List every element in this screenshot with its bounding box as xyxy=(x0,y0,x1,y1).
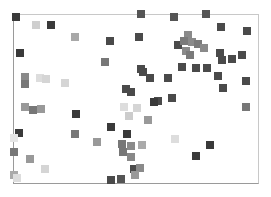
scatter-point xyxy=(202,10,210,18)
scatter-point xyxy=(21,80,29,88)
scatter-point xyxy=(71,130,79,138)
scatter-point xyxy=(180,37,188,45)
scatter-point xyxy=(133,104,141,112)
scatter-point xyxy=(178,63,186,71)
scatter-point xyxy=(37,105,45,113)
scatter-point xyxy=(146,74,154,82)
scatter-point xyxy=(41,165,49,173)
scatter-point xyxy=(32,21,40,29)
scatter-point xyxy=(127,142,135,150)
scatter-point xyxy=(137,10,145,18)
scatter-point xyxy=(171,135,179,143)
scatter-point xyxy=(107,176,115,184)
scatter-point xyxy=(200,44,208,52)
scatter-point xyxy=(16,49,24,57)
scatter-point xyxy=(106,37,114,45)
scatter-point xyxy=(192,64,200,72)
scatter-point xyxy=(164,74,172,82)
scatter-point xyxy=(150,98,158,106)
scatter-point xyxy=(206,141,214,149)
scatter-point xyxy=(93,138,101,146)
scatter-point xyxy=(192,152,200,160)
scatter-point xyxy=(186,51,194,59)
scatter-point xyxy=(61,79,69,87)
scatter-point xyxy=(118,140,126,148)
scatter-point xyxy=(127,153,135,161)
scatter-point xyxy=(47,21,55,29)
scatter-point xyxy=(203,64,211,72)
scatter-point xyxy=(242,103,250,111)
scatter-point xyxy=(144,116,152,124)
scatter-point xyxy=(12,13,20,21)
scatter-point xyxy=(218,56,226,64)
scatter-point xyxy=(21,103,29,111)
scatter-point xyxy=(214,72,222,80)
scatter-point xyxy=(42,75,50,83)
scatter-point xyxy=(101,58,109,66)
scatter-point xyxy=(117,175,125,183)
scatter-point xyxy=(120,103,128,111)
scatter-point xyxy=(170,13,178,21)
scatter-point xyxy=(131,171,139,179)
scatter-point xyxy=(135,33,143,41)
scatter-point xyxy=(10,134,18,142)
scatter-point xyxy=(72,110,80,118)
scatter-point xyxy=(219,84,227,92)
scatter-point xyxy=(168,94,176,102)
scatter-point xyxy=(107,123,115,131)
scatter-point xyxy=(10,148,18,156)
scatter-point xyxy=(238,51,246,59)
scatter-point xyxy=(242,77,250,85)
scatter-point xyxy=(125,112,133,120)
scatter-point xyxy=(119,148,127,156)
scatter-point xyxy=(243,27,251,35)
scatter-point xyxy=(228,55,236,63)
scatter-point xyxy=(138,141,146,149)
scatter-point xyxy=(29,106,37,114)
scatter-point xyxy=(127,88,135,96)
scatter-point xyxy=(217,23,225,31)
scatter-point xyxy=(123,130,131,138)
scatter-point xyxy=(71,33,79,41)
scatter-point xyxy=(26,155,34,163)
scatter-point xyxy=(13,174,21,182)
